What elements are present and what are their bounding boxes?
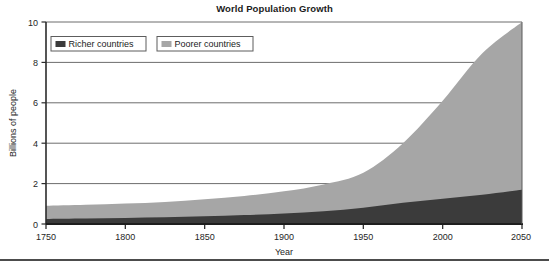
chart-figure: World Population Growth [0,0,549,267]
y-axis-title: Billions of people [8,89,18,157]
footer-divider [0,259,549,261]
y-tick-label-8: 8 [33,58,38,68]
legend-item-poorer-countries[interactable]: Poorer countries [157,37,253,52]
x-tick-label-2000: 2000 [433,232,453,242]
legend-label-richer: Richer countries [69,39,135,49]
x-tick-label-1900: 1900 [274,232,294,242]
y-tick-label-10: 10 [28,18,38,28]
legend-swatch-poorer-icon [162,41,172,47]
x-tick-label-2050: 2050 [511,232,531,242]
legend-item-richer-countries[interactable]: Richer countries [51,37,146,52]
x-axis-title: Year [275,247,293,257]
x-tick-label-1800: 1800 [115,232,135,242]
y-tick-label-0: 0 [33,220,38,230]
x-tick-label-1950: 1950 [353,232,373,242]
legend-swatch-richer-icon [56,41,66,47]
x-tick-label-1750: 1750 [36,232,56,242]
x-tick-label-1850: 1850 [195,232,215,242]
population-area-chart: 10 8 6 4 2 0 1750 1800 1850 1900 1950 20… [0,0,549,267]
y-tick-label-4: 4 [33,139,38,149]
y-tick-label-6: 6 [33,98,38,108]
y-tick-label-2: 2 [33,179,38,189]
legend-label-poorer: Poorer countries [175,39,242,49]
